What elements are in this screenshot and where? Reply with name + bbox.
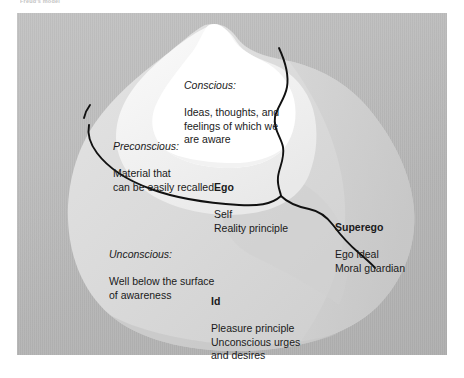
label-preconscious: Preconscious: Material that can be easil… (113, 127, 214, 208)
label-ego: Ego Self Reality principle (214, 168, 288, 249)
label-conscious-heading: Conscious: (184, 79, 279, 92)
label-id-body: Pleasure principle Unconscious urges and… (211, 322, 300, 362)
waterline-left-tail (84, 105, 90, 118)
label-ego-heading: Ego (214, 181, 288, 194)
figure-panel: Conscious: Ideas, thoughts, and feelings… (17, 13, 447, 355)
label-superego-body: Ego ideal Moral guardian (335, 248, 405, 275)
label-id-heading: Id (211, 295, 300, 308)
label-id: Id Pleasure principle Unconscious urges … (211, 282, 300, 376)
label-ego-body: Self Reality principle (214, 208, 288, 235)
label-unconscious-body: Well below the surface of awareness (109, 275, 214, 302)
figure-page: Freud's model (0, 0, 464, 378)
label-unconscious-heading: Unconscious: (109, 248, 214, 261)
top-cut-off-caption: Freud's model (20, 0, 60, 4)
label-preconscious-body: Material that can be easily recalled (113, 167, 214, 194)
label-superego-heading: Superego (335, 221, 405, 234)
label-preconscious-heading: Preconscious: (113, 140, 214, 153)
label-superego: Superego Ego ideal Moral guardian (335, 208, 405, 289)
label-unconscious: Unconscious: Well below the surface of a… (109, 235, 214, 316)
